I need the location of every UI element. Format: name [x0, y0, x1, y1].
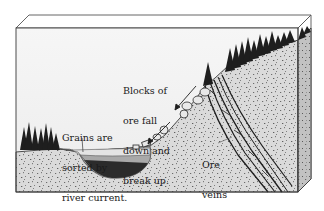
label-line: Ore	[202, 160, 227, 170]
block-side-face	[298, 15, 311, 192]
label-line: Blocks of	[123, 86, 170, 96]
label-line: break up.	[123, 176, 170, 186]
label-line: Grains are	[62, 133, 127, 143]
label-line: veins	[202, 190, 227, 200]
label-ore-veins: Ore veins	[202, 140, 227, 210]
block-top-face	[16, 15, 311, 28]
label-line: river current.	[62, 193, 127, 203]
label-grains-sorted: Grains are sorted by river current.	[62, 113, 127, 211]
label-line: down and	[123, 146, 170, 156]
label-blocks-of-ore: Blocks of ore fall down and break up.	[123, 66, 170, 196]
label-line: ore fall	[123, 116, 170, 126]
label-line: sorted by	[62, 163, 127, 173]
